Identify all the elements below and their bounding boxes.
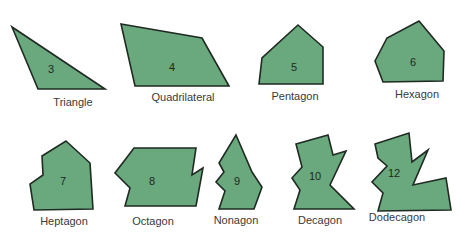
label-triangle: Triangle (53, 96, 92, 108)
label-hexagon: Hexagon (395, 88, 439, 100)
label-octagon: Octagon (132, 215, 174, 227)
polygon-diagram: 3 4 5 6 7 8 9 10 12 (0, 0, 461, 237)
polygon-pentagon: 5 (259, 25, 323, 84)
polygon-hexagon: 6 (375, 21, 444, 82)
polygon-triangle: 3 (12, 27, 105, 89)
dodecagon-shape (372, 133, 451, 211)
nonagon-shape (216, 135, 262, 209)
side-count: 12 (388, 167, 400, 179)
polygon-decagon: 10 (292, 135, 354, 209)
decagon-shape (292, 135, 354, 209)
side-count: 10 (309, 170, 321, 182)
label-pentagon: Pentagon (271, 90, 318, 102)
side-count: 9 (234, 175, 240, 187)
pentagon-shape (259, 25, 323, 84)
polygon-heptagon: 7 (30, 141, 93, 210)
polygon-nonagon: 9 (216, 135, 262, 209)
side-count: 7 (60, 175, 66, 187)
side-count: 3 (48, 63, 54, 75)
side-count: 4 (169, 61, 175, 73)
polygon-quadrilateral: 4 (121, 24, 229, 86)
polygon-octagon: 8 (115, 148, 203, 206)
quadrilateral-shape (121, 24, 229, 86)
polygon-dodecagon: 12 (372, 133, 451, 211)
label-decagon: Decagon (298, 214, 342, 226)
label-quadrilateral: Quadrilateral (152, 91, 215, 103)
label-heptagon: Heptagon (40, 215, 88, 227)
side-count: 5 (291, 61, 297, 73)
hexagon-shape (375, 21, 444, 82)
side-count: 8 (149, 175, 155, 187)
octagon-shape (115, 148, 203, 206)
triangle-shape (12, 27, 105, 89)
side-count: 6 (410, 56, 416, 68)
label-dodecagon: Dodecagon (369, 211, 425, 223)
label-nonagon: Nonagon (214, 214, 259, 226)
